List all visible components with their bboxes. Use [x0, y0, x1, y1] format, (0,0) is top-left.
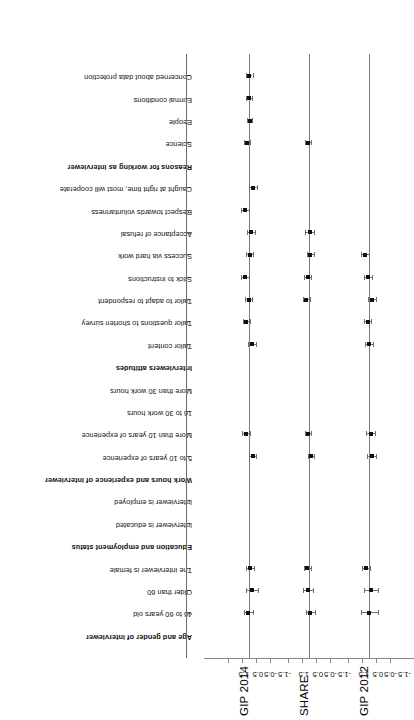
coefficient-point [369, 432, 373, 436]
error-bar-cap [361, 252, 362, 257]
error-bar-cap [246, 566, 247, 571]
axis-tick-label: -1.5 [398, 670, 411, 679]
error-bar-cap [364, 588, 365, 593]
axis-tick [288, 658, 289, 663]
error-bar-cap [361, 610, 362, 615]
axis-tick-label: 0.5 [372, 670, 383, 679]
panel-share: SHARE-1.5-0.50.51.5 [278, 54, 340, 658]
coefficient-point [248, 119, 252, 123]
legend-variable-label: Caught at right time, most will cooperat… [60, 185, 192, 194]
legend-variable-label: 46 to 60 years old [133, 610, 192, 619]
error-bar-cap [305, 230, 306, 235]
coefficient-point [248, 566, 252, 570]
error-bar-cap [253, 610, 254, 615]
coefficient-point [308, 230, 312, 234]
axis-tick [362, 658, 363, 663]
axis-tick-label: 1.5 [238, 670, 249, 679]
error-bar-cap [378, 610, 379, 615]
panel-gip-2014: GIP 2014-1.5-0.50.51.5 [218, 54, 280, 658]
error-bar-cap [248, 342, 249, 347]
legend-axis-line [186, 54, 187, 658]
coefficient-point [306, 141, 310, 145]
error-bar-cap [370, 566, 371, 571]
error-bar-cap [250, 140, 251, 145]
legend-variable-label: Respect towards voluntariness [91, 208, 192, 217]
legend-variable-label: 5 to 10 years of experience [103, 454, 192, 463]
legend-variable-label: More than 30 work hours [110, 387, 192, 396]
error-bar-cap [257, 185, 258, 190]
error-bar-cap [255, 230, 256, 235]
error-bar-cap [250, 319, 251, 324]
error-bar-cap [303, 588, 304, 593]
error-bar-cap [375, 431, 376, 436]
legend-variable-label: People [169, 118, 192, 127]
value-axis [324, 658, 414, 659]
legend-variable-label: Science [166, 140, 192, 149]
axis-tick-label: -0.5 [264, 670, 277, 679]
legend-variable-label: The interviewer is female [110, 566, 192, 575]
axis-tick-label: 1.5 [298, 670, 309, 679]
coefficient-point [369, 588, 373, 592]
coefficient-point [247, 298, 251, 302]
error-bar-cap [376, 454, 377, 459]
error-bar-cap [311, 431, 312, 436]
legend-group-header: Interviewers attitudes [116, 364, 192, 373]
axis-tick-label: 1.5 [358, 670, 369, 679]
coefficient-point [247, 96, 251, 100]
legend-variable-label: Success via hard work [118, 252, 192, 261]
coefficient-point [244, 432, 248, 436]
error-bar-cap [241, 208, 242, 213]
coefficient-point [366, 320, 370, 324]
error-bar-cap [253, 252, 254, 257]
coefficient-point [367, 611, 371, 615]
legend-variable-label: Stick to instructions [128, 275, 192, 284]
axis-tick [302, 658, 303, 663]
error-bar-cap [256, 342, 257, 347]
legend-variable-label: Acceptance of refusal [121, 230, 192, 239]
error-bar-cap [367, 454, 368, 459]
coefficient-point [250, 342, 254, 346]
axis-tick [242, 658, 243, 663]
error-bar-cap [252, 96, 253, 101]
axis-tick [376, 658, 377, 663]
coefficient-point [306, 275, 310, 279]
error-bar-cap [249, 208, 250, 213]
error-bar-cap [371, 319, 372, 324]
error-bar-cap [378, 588, 379, 593]
coefficient-point [308, 253, 312, 257]
legend-group-header: Education and employment status [72, 543, 192, 552]
error-bar-cap [254, 566, 255, 571]
legend-variable-label: Formal conditions [134, 96, 192, 105]
error-bar-cap [250, 431, 251, 436]
error-bar-cap [364, 275, 365, 280]
legend-variable-label: More than 10 years of experience [82, 431, 192, 440]
error-bar-cap [311, 275, 312, 280]
axis-tick [390, 658, 391, 663]
coefficient-point [244, 320, 248, 324]
legend-variable-label: 16 to 30 work hours [127, 409, 192, 418]
legend-variable-label: Tailor questions to shorten survey [82, 319, 192, 328]
error-bar-cap [252, 118, 253, 123]
coefficient-point [309, 454, 313, 458]
error-bar-cap [314, 454, 315, 459]
error-bar-cap [247, 230, 248, 235]
coefficient-point [366, 275, 370, 279]
legend-variable-label: Concerned about data protection [84, 73, 192, 82]
legend-group-header: Work hours and experience of interviewer [45, 476, 192, 485]
error-bar-cap [365, 342, 366, 347]
axis-tick [228, 658, 229, 663]
coefficient-point [251, 454, 255, 458]
error-bar-cap [314, 252, 315, 257]
error-bar-cap [315, 610, 316, 615]
legend-variable-label: Interviewer is employed [114, 498, 192, 507]
error-bar-cap [376, 297, 377, 302]
error-bar-cap [362, 566, 363, 571]
axis-tick-label: 0.5 [312, 670, 323, 679]
error-bar-cap [246, 588, 247, 593]
coefficient-point [367, 342, 371, 346]
error-bar-cap [313, 588, 314, 593]
error-bar-cap [366, 431, 367, 436]
legend-group-header: Reasons for working as interviewer [67, 163, 192, 172]
error-bar-cap [244, 610, 245, 615]
